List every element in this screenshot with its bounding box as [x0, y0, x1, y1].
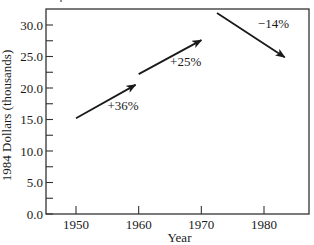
plot-frame [46, 9, 309, 214]
y-tick-label: 0.0 [27, 207, 43, 222]
y-axis-title: 1984 Dollars (thousands) [0, 50, 14, 181]
percent-change-label: +25% [170, 54, 201, 69]
cut-off-header [60, 0, 62, 2]
x-tick-label: 1950 [63, 217, 89, 232]
y-tick-label: 30.0 [20, 18, 43, 33]
chart: +36%+25%−14% 0.05.010.015.020.025.030.01… [0, 0, 314, 245]
y-tick-label: 25.0 [20, 49, 43, 64]
y-tick-label: 10.0 [20, 144, 43, 159]
x-axis-title: Year [168, 230, 193, 245]
percent-change-label: −14% [258, 16, 289, 31]
y-tick-label: 5.0 [27, 175, 43, 190]
x-tick-label: 1980 [251, 217, 277, 232]
series-group: +36%+25%−14% [76, 13, 289, 118]
plot-area [46, 9, 309, 214]
x-tick-label: 1970 [188, 217, 214, 232]
y-tick-label: 20.0 [20, 81, 43, 96]
x-tick-label: 1960 [126, 217, 152, 232]
percent-change-label: +36% [107, 98, 138, 113]
y-tick-label: 15.0 [20, 112, 43, 127]
